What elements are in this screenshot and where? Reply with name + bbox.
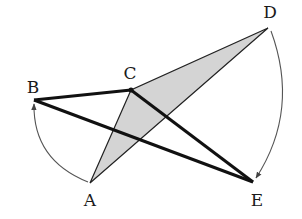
label-b: B bbox=[27, 79, 40, 96]
rotation-arc-d-to-e bbox=[256, 31, 283, 178]
label-e: E bbox=[251, 192, 263, 209]
segment-ce bbox=[131, 90, 253, 182]
point-c-dot bbox=[129, 88, 134, 93]
label-d: D bbox=[263, 4, 277, 21]
diagram-canvas bbox=[0, 0, 302, 219]
label-c: C bbox=[123, 65, 136, 82]
label-a: A bbox=[84, 192, 96, 209]
geometry-figure: A B C D E bbox=[0, 0, 302, 219]
shaded-triangle-acd bbox=[90, 28, 268, 183]
segment-bc bbox=[34, 90, 131, 100]
